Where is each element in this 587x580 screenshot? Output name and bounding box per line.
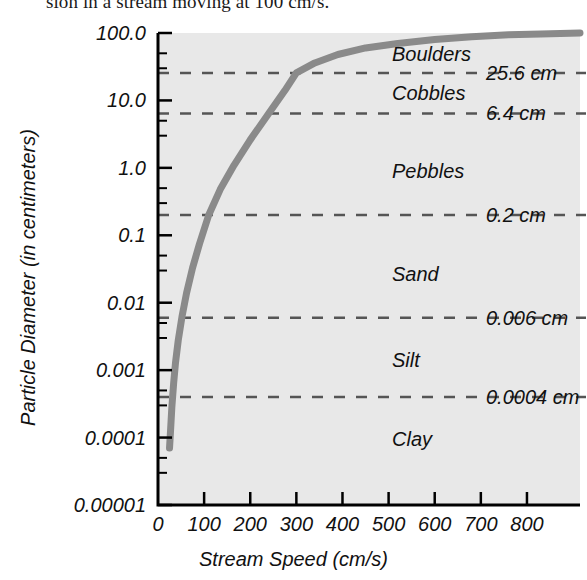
category-label: Pebbles <box>392 160 464 183</box>
threshold-label: 6.4 cm <box>486 102 546 125</box>
x-axis-tick-label: 700 <box>464 513 497 536</box>
category-label: Boulders <box>392 43 471 66</box>
x-axis-tick-label: 200 <box>234 513 267 536</box>
y-axis-tick-label: 100.0 <box>0 22 146 45</box>
x-axis-tick-label: 300 <box>280 513 313 536</box>
threshold-label: 0.2 cm <box>486 203 546 226</box>
x-axis-title: Stream Speed (cm/s) <box>0 548 587 571</box>
y-axis-tick-label: 0.00001 <box>0 494 146 517</box>
threshold-label: 25.6 cm <box>486 61 557 84</box>
x-axis-tick-label: 800 <box>510 513 543 536</box>
y-axis-title: Particle Diameter (in centimeters) <box>17 68 40 488</box>
x-axis-tick-label: 400 <box>326 513 359 536</box>
category-label: Sand <box>392 263 439 286</box>
x-axis-tick-label: 100 <box>187 513 220 536</box>
x-axis-tick-label: 500 <box>372 513 405 536</box>
x-axis-tick-label: 600 <box>418 513 451 536</box>
threshold-label: 0.006 cm <box>486 306 568 329</box>
figure-root: sion in a stream moving at 100 cm/s. 100… <box>0 0 587 580</box>
threshold-label: 0.0004 cm <box>486 385 579 408</box>
category-label: Clay <box>392 428 432 451</box>
x-axis-tick-label: 0 <box>152 513 163 536</box>
category-label: Cobbles <box>392 82 465 105</box>
category-label: Silt <box>392 349 420 372</box>
